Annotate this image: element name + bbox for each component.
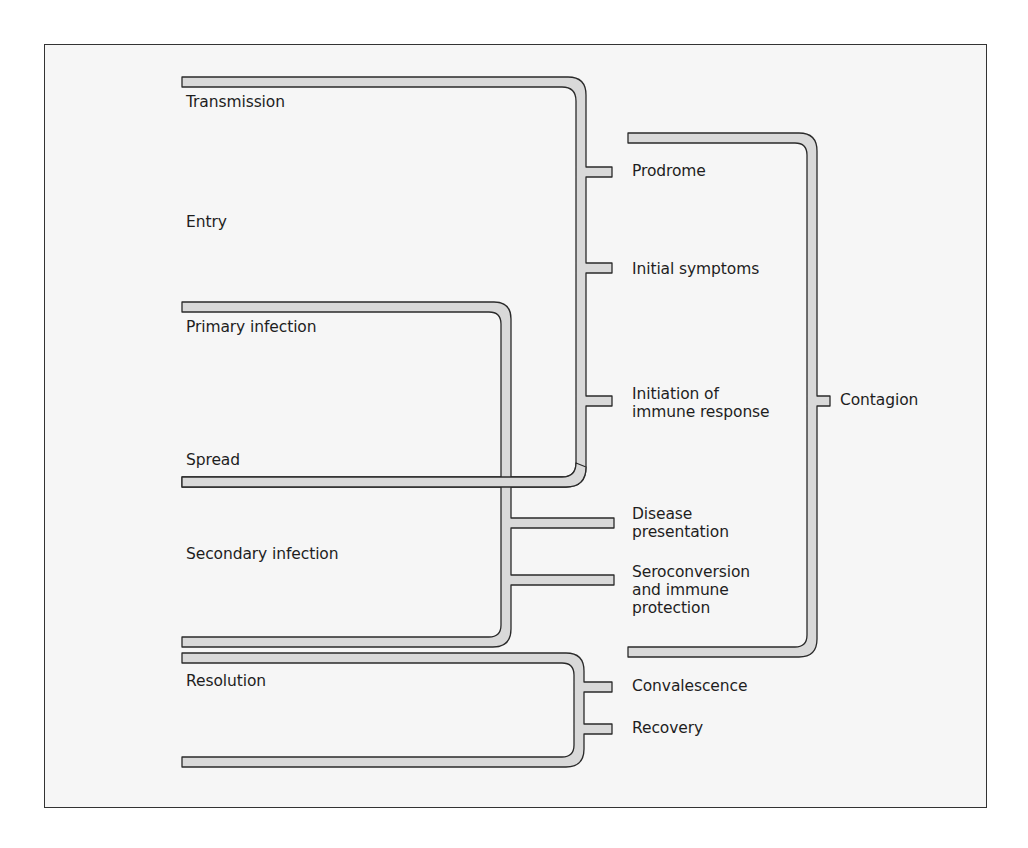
label-spread: Spread bbox=[186, 451, 240, 470]
label-initiation-line1: Initiation of bbox=[632, 385, 719, 404]
bracket-resolution bbox=[182, 653, 612, 767]
bracket-primary-secondary bbox=[182, 302, 614, 647]
label-prodrome: Prodrome bbox=[632, 162, 706, 181]
label-disease-line2: presentation bbox=[632, 523, 729, 542]
bracket-lines bbox=[0, 0, 1028, 848]
label-recovery: Recovery bbox=[632, 719, 703, 738]
label-secondary-infection: Secondary infection bbox=[186, 545, 338, 564]
label-seroconversion-line1: Seroconversion bbox=[632, 563, 750, 582]
label-seroconversion-line3: protection bbox=[632, 599, 710, 618]
label-transmission: Transmission bbox=[186, 93, 285, 112]
label-initiation-line2: immune response bbox=[632, 403, 770, 422]
label-disease-line1: Disease bbox=[632, 505, 692, 524]
label-convalescence: Convalescence bbox=[632, 677, 747, 696]
bracket-transmission-spread bbox=[182, 77, 612, 487]
label-seroconversion-line2: and immune bbox=[632, 581, 729, 600]
label-resolution: Resolution bbox=[186, 672, 266, 691]
label-initial-symptoms: Initial symptoms bbox=[632, 260, 759, 279]
label-contagion: Contagion bbox=[840, 391, 918, 410]
bracket-transmission-bottom-bar bbox=[182, 463, 586, 487]
label-primary-infection: Primary infection bbox=[186, 318, 316, 337]
label-entry: Entry bbox=[186, 213, 227, 232]
